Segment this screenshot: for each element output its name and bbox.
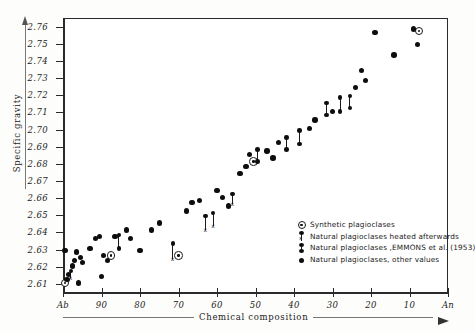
legend-item-heated[interactable]: xNatural plagioclases heated afterwards [296,231,475,243]
legend-marker-other-icon [296,254,310,266]
x-tick [63,288,64,297]
data-point [149,227,154,232]
legend-marker-emmons-icon [296,242,310,254]
data-point [324,101,329,106]
y-tick-label: 2.71 [8,107,48,117]
y-tick-label: 2.76 [8,22,48,32]
y-tick [56,147,64,148]
data-point [255,147,260,152]
data-point [157,220,162,225]
x-tick [256,288,257,297]
x-tick-label: 40 [279,300,309,310]
x-axis-title: Chemical composition [194,312,313,322]
x-tick [140,288,141,297]
legend-item-synthetic[interactable]: Synthetic plagioclases [296,219,475,231]
legend-item-emmons[interactable]: Natural plagioclases ,EMMONS et al. (195… [296,242,475,254]
x-axis-arrow-icon [438,317,449,325]
x-tick [179,288,180,297]
y-tick [56,27,64,28]
x-tick-label: Ab [48,300,78,310]
x-tick [294,288,295,297]
data-point [372,30,377,35]
data-point [359,68,364,73]
legend-item-other[interactable]: Natural plagioclases, other values [296,254,475,266]
data-point [243,164,248,169]
x-tick [410,288,411,297]
y-tick-label: 2.73 [8,73,48,83]
y-tick-label: 2.64 [8,227,48,237]
y-tick [56,44,64,45]
x-axis-title-group: Chemical composition [63,310,448,324]
y-tick [56,112,64,113]
x-tick [217,288,218,297]
x-tick-label: 80 [125,300,155,310]
data-point [70,263,75,268]
legend-label: Natural plagioclases, other values [310,255,439,264]
y-tick [56,78,64,79]
legend-marker-synthetic-icon [296,219,310,231]
y-tick [56,267,64,268]
y-tick-label: 2.62 [8,262,48,272]
y-tick [56,130,64,131]
data-point [312,117,317,122]
x-tick-label: An [433,300,463,310]
data-point [171,241,175,245]
x-tick [371,288,372,297]
y-tick-label: 2.75 [8,39,48,49]
y-tick-label: 2.66 [8,193,48,203]
y-tick-label: 2.72 [8,90,48,100]
data-point [264,148,269,153]
data-point [184,208,189,213]
y-tick-label: 2.65 [8,210,48,220]
legend-label: Synthetic plagioclases [310,220,395,229]
x-tick [102,288,103,297]
y-tick [56,215,64,216]
data-point [80,260,85,265]
x-tick-label: 60 [202,300,232,310]
data-point [270,155,275,160]
y-tick [56,181,64,182]
legend-label: Natural plagioclases ,EMMONS et al. (195… [310,243,475,252]
x-tick-label: 20 [356,300,386,310]
x-tick-label: 70 [164,300,194,310]
data-point [137,248,142,253]
data-point [62,248,67,253]
y-tick [56,95,64,96]
data-point [214,188,219,193]
y-tick [56,164,64,165]
data-point [117,246,122,251]
data-point [203,214,207,218]
data-point-x-mark: x [171,256,175,262]
data-point [74,249,79,254]
data-point [255,159,260,164]
x-tick-label: 10 [395,300,425,310]
x-tick-label: 30 [318,300,348,310]
y-tick-label: 2.68 [8,159,48,169]
x-tick [448,288,449,297]
x-tick [333,288,334,297]
data-point [391,52,396,57]
y-tick-label: 2.74 [8,56,48,66]
data-point-synthetic [174,251,183,260]
y-tick-label: 2.63 [8,245,48,255]
x-axis-title-rule-right [313,317,433,318]
data-point [64,277,69,282]
data-point [284,135,289,140]
y-tick-label: 2.61 [8,279,48,289]
data-point-x-mark: x [203,227,207,233]
y-tick-label: 2.69 [8,142,48,152]
y-tick [56,61,64,62]
data-point [76,280,81,285]
data-point [284,147,289,152]
y-tick [56,198,64,199]
y-tick-label: 2.67 [8,176,48,186]
y-tick-label: 2.70 [8,125,48,135]
data-point [189,200,194,205]
legend: Synthetic plagioclasesxNatural plagiocla… [296,219,475,265]
data-point [124,227,129,232]
x-tick-label: 90 [87,300,117,310]
y-tick [56,232,64,233]
x-axis-title-rule-left [63,317,194,318]
legend-label: Natural plagioclases heated afterwards [310,232,459,241]
